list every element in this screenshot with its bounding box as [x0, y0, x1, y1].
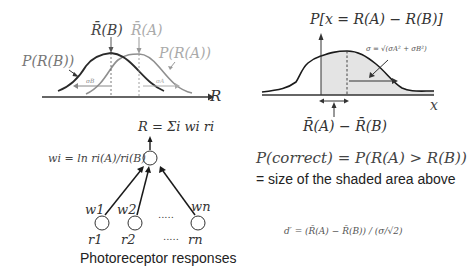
mean-b-arrowhead [109, 47, 114, 53]
mean-diff-label: R̄(A) − R̄(B) [303, 119, 387, 133]
photoreceptor-caption: Photoreceptor responses [80, 251, 236, 265]
input-node-1 [95, 216, 109, 230]
diff-arrowhead-right [344, 99, 349, 104]
sigma-a-label: σA [156, 78, 164, 84]
mean-a-label: R̄(A) [131, 23, 163, 37]
dots-bottom: ..... [163, 232, 179, 242]
input-node-n [191, 216, 205, 230]
edge-1-head [137, 166, 144, 173]
r-axis-label: R [210, 89, 221, 104]
input-n-label: rn [188, 233, 203, 246]
input-node-2 [128, 216, 142, 230]
mean-a-arrowhead [137, 48, 142, 54]
p-ra-label: P(R(A)) [159, 46, 211, 60]
sigma-b-arrowhead [73, 83, 78, 89]
p-correct-formula: P(correct) = P(R(A) > R(B)) [256, 151, 467, 166]
output-arrowhead [148, 136, 153, 142]
mean-b-label: R̄(B) [91, 23, 123, 37]
sigma-formula: σ = √(σA² + σB²) [366, 46, 427, 53]
input-2-label: r2 [121, 233, 136, 246]
edge-2-head [145, 166, 151, 173]
sum-formula: R = Σi wi ri [138, 120, 214, 133]
shaded-area-description: = size of the shaded area above [256, 172, 456, 186]
figure: R̄(B) R̄(A) P(R(B)) P(R(A)) σB σA R P[x … [0, 0, 469, 275]
p-ra-pointer-head [168, 66, 173, 70]
edge-2 [137, 172, 148, 215]
sigma-b-label: σB [86, 78, 95, 84]
weight-n-label: wn [191, 200, 211, 213]
diff-pointer-head [332, 102, 337, 108]
weight-1-label: w1 [85, 203, 104, 216]
dprime-formula: d′ = (R̄(A) − R̄(B)) / (σ/√2) [284, 227, 402, 236]
p-rb-label: P(R(B)) [22, 54, 74, 68]
x-axis-label: x [430, 98, 438, 112]
diff-arrowhead-left [319, 99, 324, 104]
edge-n-head [159, 166, 166, 173]
difference-title: P[x = R(A) − R(B)] [310, 12, 443, 26]
weight-2-label: w2 [117, 203, 136, 216]
shaded-area [321, 51, 434, 95]
y-axis-arrowhead [319, 33, 324, 40]
weight-formula: wi = ln ri(A)/ri(B) [48, 153, 146, 164]
dots-top: ..... [158, 210, 174, 220]
p-ra-pointer [171, 62, 175, 67]
input-1-label: r1 [88, 233, 103, 246]
